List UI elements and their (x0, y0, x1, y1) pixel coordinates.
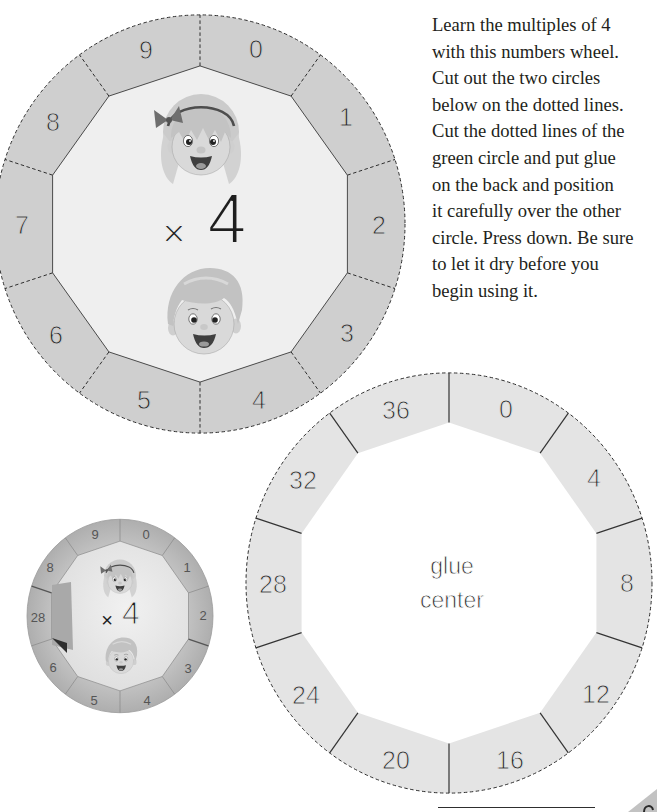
wheel-label: 8 (620, 569, 634, 597)
assembled-wheel-photo: 0 1 2 3 4 5 6 28 8 9 × 4 (27, 519, 213, 712)
wheel-label: 24 (292, 681, 320, 709)
photo-times-sign: × (101, 609, 113, 631)
wheel-label: 5 (137, 386, 151, 414)
worksheet-page: 0 1 2 3 4 5 6 7 8 9 × 4 (0, 0, 657, 812)
times-sign: × (162, 211, 185, 255)
wheel-label: 0 (499, 395, 513, 423)
instructions-line: on the back and position (432, 172, 633, 199)
wheel-label: 3 (340, 319, 354, 347)
photo-wheel-label: 8 (46, 560, 53, 575)
wheel-label: 7 (15, 211, 29, 239)
instructions-line: begin using it. (432, 278, 633, 305)
instructions-line: Cut out the two circles (432, 65, 633, 92)
instructions-line: with this numbers wheel. (432, 39, 633, 66)
multiplier-number: 4 (208, 180, 247, 258)
wheel-label: 16 (496, 746, 524, 774)
answer-wheel-glue-area (302, 423, 597, 744)
photo-wheel-label: 28 (31, 610, 45, 625)
instructions-line: green circle and put glue (432, 145, 633, 172)
glue-center-label-line-2: center (420, 587, 484, 613)
photo-wheel-label: 2 (199, 608, 206, 623)
photo-wheel-label: 5 (90, 693, 97, 708)
instructions-line: it carefully over the other (432, 198, 633, 225)
instructions-line: Learn the multiples of 4 (432, 12, 633, 39)
wheel-label: 4 (587, 464, 601, 492)
photo-wheel-label: 6 (49, 660, 56, 675)
photo-wheel-label: 9 (91, 527, 98, 542)
wheel-label: 6 (49, 321, 63, 349)
instructions-line: below on the dotted lines. (432, 92, 633, 119)
footer-rule (438, 807, 595, 808)
photo-wheel-label: 4 (143, 693, 150, 708)
instructions-text: Learn the multiples of 4 with this numbe… (432, 12, 633, 305)
wheel-label: 36 (382, 396, 410, 424)
glue-center-label-line-1: glue (430, 553, 473, 579)
photo-multiplier-number: 4 (122, 595, 140, 631)
wheel-label: 12 (582, 680, 610, 708)
wheel-label: 9 (139, 36, 153, 64)
multiplier-wheel: 0 1 2 3 4 5 6 7 8 9 × 4 (0, 15, 405, 433)
instructions-line: to let it dry before you (432, 251, 633, 278)
wheel-label: 0 (249, 35, 263, 63)
instructions-line: circle. Press down. Be sure (432, 225, 633, 252)
answer-wheel: 0 4 8 12 16 20 24 28 32 36 glue center (246, 373, 652, 793)
wheel-label: 1 (339, 103, 353, 131)
wheel-label: 32 (289, 466, 317, 494)
instructions-line: Cut the dotted lines of the (432, 118, 633, 145)
wheel-label: 2 (372, 211, 386, 239)
wheel-label: 8 (46, 108, 60, 136)
photo-wheel-label: 0 (142, 527, 149, 542)
wheel-label: 28 (259, 570, 287, 598)
photo-wheel-label: 1 (183, 560, 190, 575)
photo-wheel-label: 3 (184, 661, 191, 676)
page-corner (628, 789, 657, 812)
wheel-label: 20 (382, 746, 410, 774)
wheel-label: 4 (252, 386, 266, 414)
